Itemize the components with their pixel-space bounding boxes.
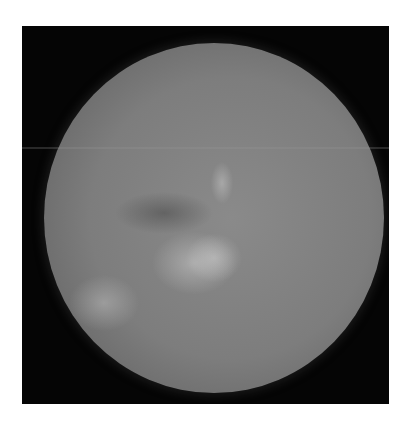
scan-line-artifact (22, 147, 389, 149)
image-frame (22, 26, 389, 404)
circular-photograph (44, 43, 384, 393)
